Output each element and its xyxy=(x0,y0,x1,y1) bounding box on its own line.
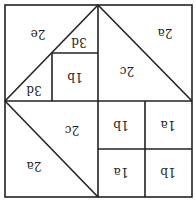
label-tl-3d-upper: 3d xyxy=(71,35,87,49)
label-tr-2a: 2a xyxy=(158,26,173,40)
label-br-1a-bl: 1a xyxy=(114,165,129,179)
label-tl-2e: 2e xyxy=(31,27,46,41)
label-br-1a-tr: 1a xyxy=(161,118,176,132)
label-br-1b-br: 1b xyxy=(160,165,176,179)
label-bl-2a: 2a xyxy=(27,159,42,173)
bottom-left-diagonal xyxy=(5,101,98,197)
top-right-diagonal xyxy=(98,5,192,101)
label-tr-2c: 2c xyxy=(120,64,135,78)
label-tl-3d-lower: 3d xyxy=(26,83,42,97)
label-bl-2c: 2c xyxy=(65,123,80,137)
dissection-diagram: 2e 3d 3d 1b 2a 2c 2c 2a 1b 1a 1a 1b xyxy=(0,0,196,204)
label-tl-1b: 1b xyxy=(67,70,83,84)
label-br-1b-tl: 1b xyxy=(113,118,129,132)
